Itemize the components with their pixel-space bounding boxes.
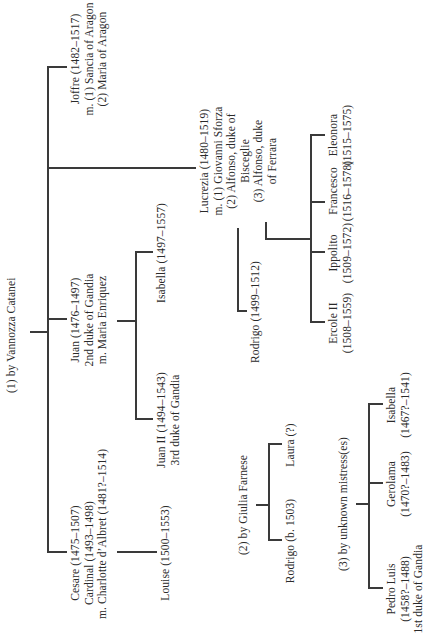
person-juan-ii: Juan II (1494–1543) 3rd duke of Gandia: [155, 364, 182, 476]
connector-line: [268, 539, 282, 541]
connector-line: [237, 228, 239, 312]
connector-line: [47, 66, 67, 68]
person-cesare: Cesare (1475–1507) Cardinal (1493–1498) …: [69, 487, 110, 619]
connector-line: [310, 134, 325, 136]
connector-line: [310, 201, 325, 203]
person-joffre: Joffre (1482–1517) m. (1) Sancia of Arag…: [69, 0, 110, 119]
connector-line: [117, 551, 157, 553]
connector-line: [47, 551, 67, 553]
connector-line: [368, 482, 383, 484]
connector-line: [265, 222, 267, 240]
person-ercole: Ercole II (1508–1559): [327, 287, 354, 359]
connector-line: [268, 443, 282, 445]
connector-line: [310, 251, 325, 253]
connector-line: [368, 403, 383, 405]
group-label-giulia: (2) by Giulia Farnese: [237, 447, 251, 563]
connector-line: [368, 404, 370, 589]
connector-line: [368, 587, 383, 589]
person-isabella-mistress: Isabella (1467?–1541): [385, 365, 412, 445]
person-louise: Louise (1500–1553): [159, 495, 173, 611]
person-eleonora: Eleonora (1515–1575): [327, 99, 354, 171]
person-isabella-juan: Isabella (1497–1557): [155, 195, 169, 311]
person-lucrezia: Lucrezia (1480–1519) m. (1) Giovanni Sfo…: [198, 97, 279, 225]
person-laura: Laura (?): [284, 415, 298, 475]
connector-line: [356, 503, 368, 505]
group-label-vannozza: (1) by Vannozza Catanei: [5, 278, 19, 393]
person-rodrigo-lucrezia: Rodrigo (1499–1512): [249, 253, 263, 371]
connector-line: [47, 318, 67, 320]
person-rodrigo-giulia: Rodrigo (b. 1503): [284, 495, 298, 587]
person-ippolito: Ippolito (1509–1572): [327, 217, 354, 289]
connector-line: [47, 67, 49, 553]
connector-line: [256, 504, 268, 506]
connector-line: [237, 310, 247, 312]
person-pedro-luis: Pedro Luis (1458?–1488) 1st duke of Gand…: [385, 539, 426, 639]
person-gerolama: Gerolama (1470?–1483): [385, 444, 412, 524]
connector-line: [117, 320, 135, 322]
connector-line: [310, 135, 312, 323]
connector-line: [135, 251, 153, 253]
connector-line: [310, 321, 325, 323]
connector-line: [135, 418, 153, 420]
connector-line: [135, 252, 137, 420]
connector-line: [265, 238, 310, 240]
group-label-mistresses: (3) by unknown mistress(es): [337, 439, 351, 571]
family-tree-diagram: (1) by Vannozza Catanei Cesare (1475–150…: [0, 0, 427, 641]
connector-line: [30, 331, 47, 333]
connector-line: [268, 444, 270, 541]
connector-line: [47, 167, 196, 169]
person-juan: Juan (1476–1497) 2nd duke of Gandia m. M…: [69, 264, 110, 376]
